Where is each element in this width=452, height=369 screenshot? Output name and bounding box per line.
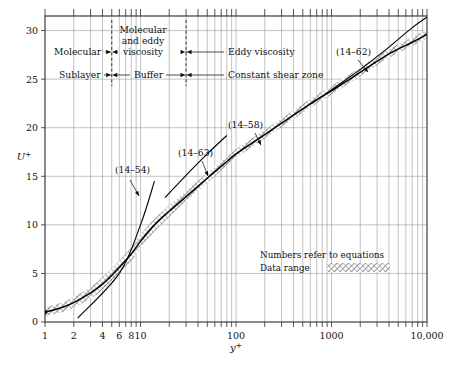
region-label-buffer: Buffer [134,69,164,80]
x-tick-label: 4 [99,330,105,341]
annotation-eq-14-62: (14–62) [336,46,371,57]
y-tick-label: 30 [26,25,38,36]
region-label-molecular-and-eddy-line2: and eddy [122,35,165,46]
y-tick-label: 5 [32,268,38,279]
x-tick-label: 8 [128,330,134,341]
x-tick-label: 1 [42,330,48,341]
y-tick-label: 25 [26,74,38,85]
legend-note: Numbers refer to equations [260,250,385,260]
legend-data-range-label: Data range [260,263,310,273]
velocity-profile-chart: 1246810100100010,000 051015202530 U+ y+ … [0,0,452,369]
region-label-molecular-and-eddy-line1: Molecular [119,24,167,35]
y-tick-label: 0 [32,316,38,327]
region-label-sublayer: Sublayer [59,69,101,80]
x-tick-label: 100 [227,330,245,341]
legend-data-range-swatch-cross [327,263,390,272]
region-label-molecular-and-eddy-line3: viscosity [122,46,164,57]
y-tick-label: 20 [26,122,38,133]
x-tick-label: 10,000 [410,330,443,341]
y-tick-label: 15 [26,171,38,182]
region-label-constant-shear-zone: Constant shear zone [228,69,323,80]
annotation-eq-14-63: (14–63) [178,147,213,158]
x-tick-label: 6 [116,330,122,341]
x-tick-label: 2 [71,330,77,341]
region-label-eddy-viscosity: Eddy viscosity [228,46,295,57]
x-tick-label: 10 [134,330,146,341]
x-tick-label: 1000 [319,330,343,341]
region-label-molecular: Molecular [54,46,102,57]
annotation-eq-14-58: (14–58) [228,119,263,130]
figure-law-of-the-wall: 1246810100100010,000 051015202530 U+ y+ … [0,0,452,369]
annotation-eq-14-54: (14–54) [115,164,150,175]
y-tick-label: 10 [26,219,38,230]
